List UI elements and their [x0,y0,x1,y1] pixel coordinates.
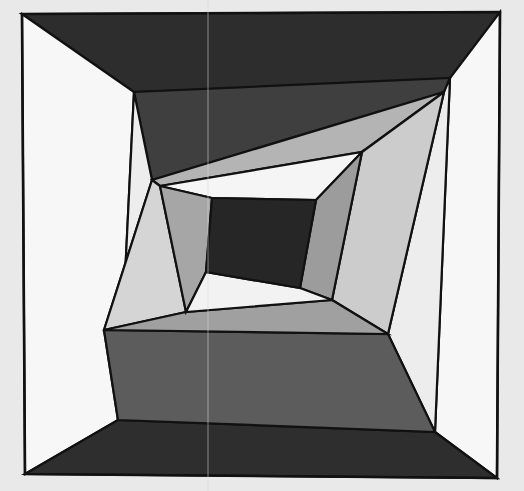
artwork-canvas [0,0,524,491]
polygon-layer [22,12,500,478]
core-quad [206,198,316,288]
ring2-bottom-band [104,330,435,432]
geometric-composition-svg [0,0,524,491]
